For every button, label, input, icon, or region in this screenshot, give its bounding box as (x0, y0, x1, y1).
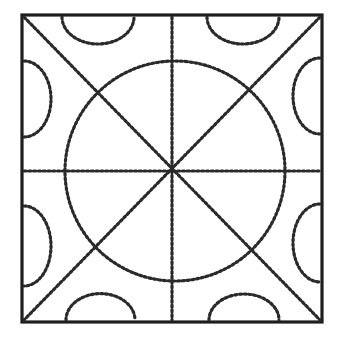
top-left-semicircle (62, 17, 134, 44)
bottom-left-semicircle (66, 294, 135, 320)
geometric-diagram (0, 0, 340, 353)
right-top-semicircle (293, 58, 320, 134)
bottom-right-semicircle (209, 294, 279, 320)
left-top-semicircle (24, 61, 51, 137)
top-right-semicircle (207, 17, 279, 44)
right-bottom-semicircle (293, 204, 320, 282)
left-bottom-semicircle (24, 206, 51, 286)
